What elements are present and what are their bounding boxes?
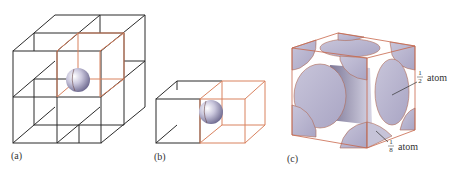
panel-c-fcc-cell: 1 2 atom 1 8 atom (c) [287,33,447,165]
panel-label-a: (a) [11,150,22,162]
svg-text:atom: atom [398,141,418,152]
highlighted-unit-cell-a [57,33,124,97]
atom-sphere-a [66,68,90,92]
panel-label-b: (b) [154,151,166,163]
face-atom-right [375,59,409,125]
panel-b-cells: (b) [154,81,265,163]
crystal-structure-figure: (a) (b) [0,0,459,169]
panel-label-c: (c) [287,153,298,165]
svg-text:2: 2 [418,77,422,85]
panel-a-lattice: (a) [11,15,145,162]
svg-text:8: 8 [389,146,393,154]
atom-sphere-b [199,100,223,124]
svg-text:1: 1 [389,138,393,146]
svg-text:atom: atom [427,72,447,83]
svg-text:1: 1 [418,69,422,77]
label-eighth-atom: 1 8 atom [388,138,418,154]
label-half-atom: 1 2 atom [417,69,447,85]
